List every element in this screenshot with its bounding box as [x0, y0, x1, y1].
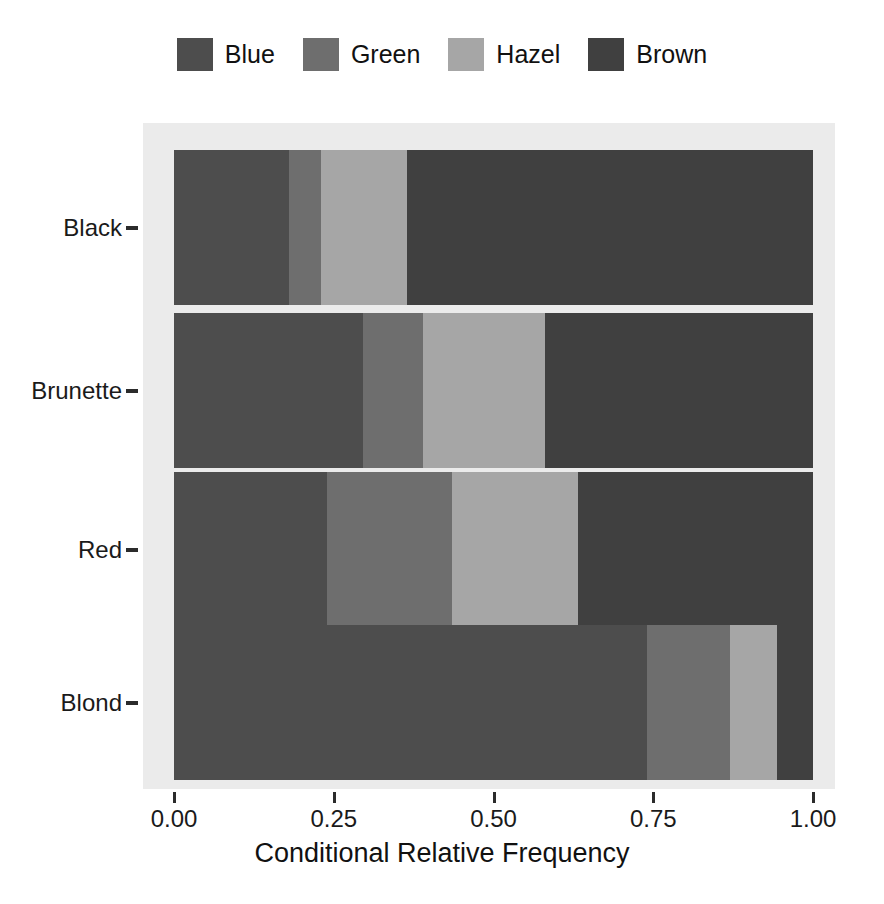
y-axis-label-red: Red [78, 538, 122, 562]
x-axis-label-0.00: 0.00 [151, 806, 198, 832]
bar-segment-black-hazel [321, 150, 407, 305]
bar-segment-blond-green [647, 625, 730, 780]
x-axis-tick-0.50 [493, 792, 496, 803]
bar-segment-red-brown [578, 472, 813, 627]
y-axis-labels: BlackBrunetteRedBlond [0, 123, 122, 789]
bar-segment-blond-blue [174, 625, 647, 780]
y-axis-tick-red [126, 548, 138, 552]
x-axis-tick-1.00 [812, 792, 815, 803]
y-axis-label-blond: Blond [61, 691, 122, 715]
y-axis-tick-blond [126, 701, 138, 705]
x-axis-label-0.50: 0.50 [470, 806, 517, 832]
x-axis-label-1.00: 1.00 [790, 806, 837, 832]
x-axis-label-0.75: 0.75 [630, 806, 677, 832]
y-axis-tick-brunette [126, 389, 138, 393]
x-axis-tick-0.25 [333, 792, 336, 803]
bar-row-brunette [174, 313, 813, 468]
bar-row-blond [174, 625, 813, 780]
bar-segment-brunette-brown [545, 313, 813, 468]
bar-row-red [174, 472, 813, 627]
bar-segment-blond-brown [777, 625, 813, 780]
bar-segment-red-blue [174, 472, 327, 627]
x-axis-tick-0.00 [173, 792, 176, 803]
bar-segment-blond-hazel [730, 625, 777, 780]
chart-plot-area: BlackBrunetteRedBlond Conditional Relati… [0, 0, 884, 904]
x-axis-title: Conditional Relative Frequency [0, 838, 884, 868]
bar-segment-brunette-blue [174, 313, 363, 468]
y-axis-tick-black [126, 226, 138, 230]
bar-segment-red-hazel [452, 472, 578, 627]
x-axis-label-0.25: 0.25 [310, 806, 357, 832]
bar-segment-brunette-hazel [423, 313, 544, 468]
bar-segment-black-blue [174, 150, 289, 305]
y-axis-label-black: Black [63, 216, 122, 240]
bar-segment-brunette-green [363, 313, 424, 468]
bar-segment-black-green [289, 150, 321, 305]
y-axis-label-brunette: Brunette [31, 379, 122, 403]
plot-panel [143, 123, 835, 789]
bar-row-black [174, 150, 813, 305]
x-axis-tick-0.75 [652, 792, 655, 803]
bar-segment-black-brown [407, 150, 813, 305]
bar-segment-red-green [327, 472, 452, 627]
